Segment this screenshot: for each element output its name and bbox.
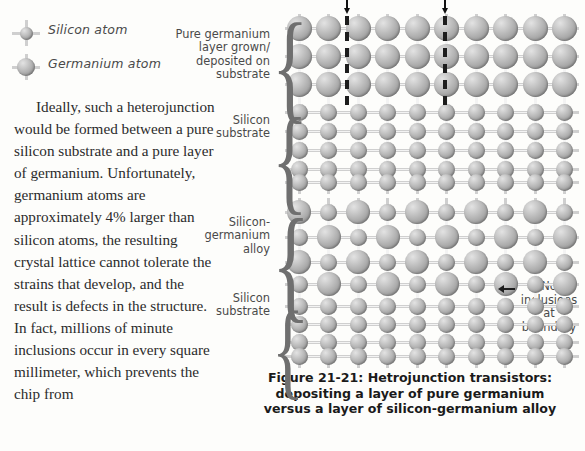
- label-alloy: Silicon- germanium alloy: [172, 216, 270, 256]
- label-silicon-substrate-top: Silicon substrate: [182, 114, 270, 141]
- germanium-atom: [493, 72, 518, 97]
- silicon-atom: [556, 298, 573, 315]
- silicon-atom: [379, 174, 396, 191]
- silicon-atom: [438, 142, 455, 159]
- germanium-atom: [405, 250, 429, 274]
- silicon-atom: [379, 123, 396, 140]
- silicon-atom: [556, 316, 573, 333]
- germanium-atom: [523, 44, 548, 69]
- atom-legend: Silicon atom Germanium atom: [8, 18, 198, 86]
- germanium-atom: [523, 200, 547, 224]
- brace-alloy-layer: {: [272, 200, 310, 290]
- silicon-atom: [468, 142, 485, 159]
- germanium-atom: [435, 272, 459, 296]
- silicon-atom: [438, 348, 455, 365]
- germanium-atom: [464, 72, 489, 97]
- silicon-atom: [350, 298, 367, 315]
- silicon-atom: [350, 174, 367, 191]
- silicon-atom: [438, 316, 455, 333]
- silicon-atom: [468, 174, 485, 191]
- germanium-atom: [464, 44, 489, 69]
- silicon-atom: [497, 298, 514, 315]
- silicon-atom: [320, 348, 337, 365]
- germanium-atom: [523, 72, 548, 97]
- diagram-sige-alloy: [283, 198, 585, 363]
- germanium-atom: [346, 16, 371, 41]
- silicon-atom: [320, 204, 337, 221]
- silicon-atom: [468, 104, 485, 121]
- silicon-atom: [350, 316, 367, 333]
- germanium-atom: [317, 272, 341, 296]
- germanium-atom: [552, 44, 577, 69]
- germanium-atom-icon: [8, 52, 44, 84]
- germanium-atom-icon: [17, 58, 35, 76]
- silicon-atom: [527, 229, 544, 246]
- legend-item-germanium: Germanium atom: [8, 52, 198, 86]
- silicon-atom: [556, 123, 573, 140]
- silicon-atom: [350, 123, 367, 140]
- silicon-atom: [556, 254, 573, 271]
- silicon-atom: [379, 254, 396, 271]
- silicon-atom: [320, 174, 337, 191]
- germanium-atom: [523, 250, 547, 274]
- silicon-atom: [409, 316, 426, 333]
- silicon-atom: [379, 348, 396, 365]
- silicon-atom: [497, 348, 514, 365]
- silicon-atom: [350, 142, 367, 159]
- silicon-atom: [350, 348, 367, 365]
- germanium-atom: [346, 250, 370, 274]
- silicon-atom: [320, 254, 337, 271]
- silicon-atom: [468, 316, 485, 333]
- silicon-atom: [527, 104, 544, 121]
- silicon-atom: [409, 104, 426, 121]
- silicon-atom: [556, 174, 573, 191]
- germanium-atom: [552, 16, 577, 41]
- silicon-atom: [556, 204, 573, 221]
- silicon-atom: [468, 229, 485, 246]
- silicon-atom: [497, 142, 514, 159]
- germanium-atom: [494, 225, 518, 249]
- silicon-atom-icon: [20, 27, 33, 40]
- germanium-atom: [464, 250, 488, 274]
- silicon-atom: [438, 174, 455, 191]
- silicon-atom: [409, 123, 426, 140]
- germanium-atom: [346, 200, 370, 224]
- silicon-atom: [468, 298, 485, 315]
- silicon-atom: [497, 254, 514, 271]
- silicon-atom: [350, 229, 367, 246]
- silicon-atom: [497, 174, 514, 191]
- silicon-atom: [527, 142, 544, 159]
- brace-germanium-layer: {: [272, 6, 308, 92]
- silicon-atom: [438, 298, 455, 315]
- silicon-atom: [409, 348, 426, 365]
- germanium-atom: [375, 16, 400, 41]
- silicon-atom: [527, 298, 544, 315]
- silicon-atom: [320, 123, 337, 140]
- germanium-atom: [317, 225, 341, 249]
- germanium-atom: [553, 225, 577, 249]
- germanium-atom: [316, 44, 341, 69]
- silicon-atom: [379, 316, 396, 333]
- silicon-atom: [556, 142, 573, 159]
- germanium-atom: [376, 272, 400, 296]
- silicon-atom: [379, 298, 396, 315]
- silicon-atom: [527, 316, 544, 333]
- label-germanium-layer: Pure germanium layer grown/ deposited on…: [172, 28, 270, 82]
- germanium-atom: [405, 44, 430, 69]
- silicon-atom: [379, 142, 396, 159]
- germanium-atom: [346, 72, 371, 97]
- silicon-atom: [409, 229, 426, 246]
- silicon-atom: [438, 204, 455, 221]
- germanium-atom: [523, 16, 548, 41]
- brace-silicon-substrate-top: {: [272, 100, 307, 184]
- silicon-atom: [497, 123, 514, 140]
- defect-arrow-1: [344, 0, 350, 15]
- left-arrow-icon: [498, 285, 515, 293]
- defect-dashed-line-1: [345, 16, 349, 108]
- germanium-atom: [553, 272, 577, 296]
- germanium-atom: [464, 16, 489, 41]
- silicon-atom: [409, 276, 426, 293]
- silicon-atom: [527, 123, 544, 140]
- silicon-atom: [409, 174, 426, 191]
- defect-dashed-line-2: [443, 16, 447, 108]
